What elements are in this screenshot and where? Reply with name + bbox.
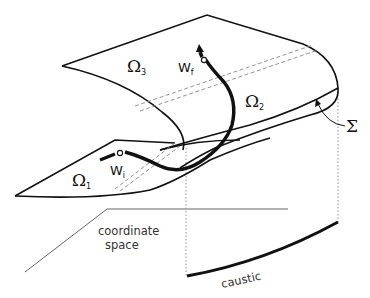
label-sigma: Σ	[346, 116, 358, 136]
lagrangian-fold-diagram: Ω3 Ω2 Ω1 Wi Wf Σ coordinate space causti…	[0, 0, 370, 298]
arrow-head-icon	[196, 44, 204, 52]
caustic-curve	[187, 222, 338, 276]
point-wi	[117, 150, 122, 155]
label-coordinate: coordinate	[98, 224, 159, 238]
label-omega1: Ω1	[72, 170, 91, 191]
label-w-final: Wf	[178, 60, 194, 77]
sigma-pointer	[318, 104, 345, 126]
label-caustic: caustic	[220, 269, 263, 291]
label-w-initial: Wi	[110, 163, 125, 180]
point-wf	[201, 57, 206, 62]
label-space: space	[105, 238, 139, 252]
projection-lines	[186, 88, 338, 276]
label-omega3: Ω3	[127, 56, 146, 77]
sigma-arrow-icon	[315, 99, 321, 107]
trajectory	[100, 44, 234, 170]
coordinate-space-plane	[25, 209, 288, 272]
fold-guide-dashes	[115, 45, 318, 191]
sheet-omega3	[62, 15, 338, 150]
label-omega2: Ω2	[245, 91, 264, 112]
